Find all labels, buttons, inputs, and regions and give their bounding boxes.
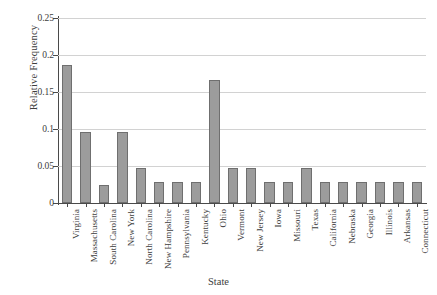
x-tick-mark bbox=[104, 203, 105, 207]
x-category-label: Kentucky bbox=[200, 209, 210, 245]
gridline bbox=[58, 55, 426, 56]
x-category-label: California bbox=[328, 209, 338, 247]
y-tick-label: 0 bbox=[49, 198, 54, 208]
x-tick-mark bbox=[67, 203, 68, 207]
x-category-label: Nebraska bbox=[347, 209, 357, 244]
x-tick-mark bbox=[141, 203, 142, 207]
bar bbox=[136, 168, 146, 203]
x-tick-mark bbox=[178, 203, 179, 207]
x-tick-mark bbox=[398, 203, 399, 207]
bar bbox=[62, 65, 72, 203]
bar bbox=[264, 182, 274, 203]
x-tick-mark bbox=[325, 203, 326, 207]
x-category-label: Connecticut bbox=[420, 209, 430, 254]
plot-area: 00.050.10.150.20.25 bbox=[58, 18, 426, 203]
bar bbox=[393, 182, 403, 203]
y-tick-label: 0.1 bbox=[42, 124, 54, 134]
bar bbox=[246, 168, 256, 203]
x-category-label: Georgia bbox=[365, 209, 375, 239]
x-category-label: Virginia bbox=[71, 209, 81, 239]
bar bbox=[191, 182, 201, 203]
x-tick-mark bbox=[86, 203, 87, 207]
bar-chart: Relative Frequency 00.050.10.150.20.25 V… bbox=[0, 0, 437, 295]
gridline bbox=[58, 129, 426, 130]
y-tick-label: 0.05 bbox=[37, 161, 54, 171]
x-category-label: South Carolina bbox=[108, 209, 118, 265]
x-tick-mark bbox=[122, 203, 123, 207]
x-category-label: New Jersey bbox=[255, 209, 265, 252]
bar bbox=[301, 168, 311, 203]
x-category-label: Massachusetts bbox=[89, 209, 99, 262]
y-tick-label: 0.25 bbox=[37, 13, 54, 23]
bar bbox=[80, 132, 90, 203]
bar bbox=[412, 182, 422, 203]
x-tick-mark bbox=[306, 203, 307, 207]
bar bbox=[338, 182, 348, 203]
bar bbox=[320, 182, 330, 203]
x-axis-title: State bbox=[0, 276, 437, 287]
gridline bbox=[58, 166, 426, 167]
x-category-label: New York bbox=[126, 209, 136, 246]
bar bbox=[99, 185, 109, 203]
x-category-label: North Carolina bbox=[144, 209, 154, 265]
x-tick-mark bbox=[343, 203, 344, 207]
bar bbox=[172, 182, 182, 203]
x-tick-mark bbox=[233, 203, 234, 207]
x-category-label: Arkansas bbox=[402, 209, 412, 243]
bar bbox=[283, 182, 293, 203]
bar bbox=[375, 182, 385, 203]
x-axis-line bbox=[58, 203, 427, 204]
x-category-label: Vermont bbox=[236, 209, 246, 241]
bar bbox=[209, 80, 219, 203]
x-tick-mark bbox=[417, 203, 418, 207]
x-tick-mark bbox=[380, 203, 381, 207]
x-category-label: New Hampshire bbox=[163, 209, 173, 269]
x-tick-mark bbox=[159, 203, 160, 207]
x-category-label: Ohio bbox=[218, 209, 228, 227]
x-category-label: Missouri bbox=[292, 209, 302, 242]
bar bbox=[356, 182, 366, 203]
x-category-label: Pennsylvania bbox=[181, 209, 191, 258]
bar bbox=[228, 168, 238, 203]
x-tick-mark bbox=[196, 203, 197, 207]
bar bbox=[154, 182, 164, 203]
x-category-label: Iowa bbox=[273, 209, 283, 227]
x-category-label: Illinois bbox=[384, 209, 394, 235]
gridline bbox=[58, 92, 426, 93]
bar bbox=[117, 132, 127, 203]
x-tick-mark bbox=[214, 203, 215, 207]
y-tick-label: 0.15 bbox=[37, 87, 54, 97]
y-tick-label: 0.2 bbox=[42, 50, 54, 60]
x-tick-mark bbox=[251, 203, 252, 207]
x-tick-mark bbox=[362, 203, 363, 207]
x-tick-mark bbox=[270, 203, 271, 207]
x-category-label: Texas bbox=[310, 209, 320, 230]
gridline bbox=[58, 18, 426, 19]
x-tick-mark bbox=[288, 203, 289, 207]
